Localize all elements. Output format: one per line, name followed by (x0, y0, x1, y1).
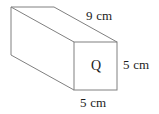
top-left-depth-edge (11, 7, 74, 42)
width-label: 5 cm (80, 96, 106, 109)
rectangular-prism-figure: 9 cm 5 cm 5 cm Q (0, 0, 159, 114)
face-label-q: Q (91, 59, 101, 73)
length-label: 9 cm (86, 9, 112, 22)
bottom-left-depth-edge (11, 55, 74, 90)
height-label: 5 cm (123, 58, 149, 71)
